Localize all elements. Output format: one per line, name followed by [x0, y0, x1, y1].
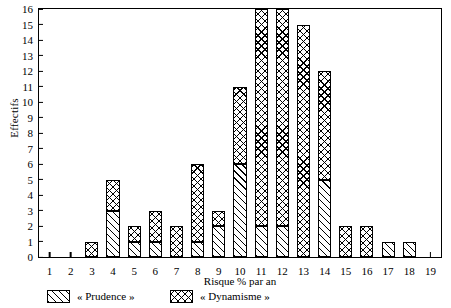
bar	[149, 211, 162, 258]
bar-segment	[318, 71, 331, 180]
plot-area: 012345678910111213141516 123456789101112…	[38, 8, 442, 258]
y-axis-tick-label: 16	[22, 4, 39, 15]
bar-segment	[128, 226, 141, 242]
bar	[106, 180, 119, 258]
bar	[382, 242, 395, 258]
bar-segment	[106, 211, 119, 258]
y-axis-tick-label: 13	[22, 50, 39, 61]
bar-segment	[255, 226, 268, 257]
bar	[170, 226, 183, 257]
bar	[297, 25, 310, 258]
bar-segment	[233, 164, 246, 257]
y-axis-tick-label: 0	[28, 252, 40, 263]
x-axis-tick-label: 18	[404, 257, 415, 277]
x-axis-tick-label: 5	[131, 257, 137, 277]
x-axis-tick-label: 14	[319, 257, 330, 277]
bar-segment	[276, 9, 289, 226]
x-axis-tick-label: 15	[340, 257, 351, 277]
bar	[403, 242, 416, 258]
y-axis-tick-label: 6	[28, 159, 40, 170]
y-axis-tick-label: 9	[28, 112, 40, 123]
legend-swatch-prudence-icon	[47, 290, 70, 303]
legend-item-prudence: « Prudence »	[47, 287, 134, 305]
x-axis-tick-label: 4	[110, 257, 116, 277]
bar-segment	[106, 180, 119, 211]
y-axis-tick-label: 4	[28, 190, 40, 201]
y-axis-tick-label: 10	[22, 97, 39, 108]
bar-segment	[212, 211, 225, 227]
bar-segment	[382, 242, 395, 258]
y-axis-tick-label: 2	[28, 221, 40, 232]
bar-segment	[255, 9, 268, 226]
bar	[276, 9, 289, 257]
y-axis-tick-label: 12	[22, 66, 39, 77]
x-axis-tick-label: 7	[174, 257, 180, 277]
bar-segment	[85, 242, 98, 258]
bar-segment	[128, 242, 141, 258]
bar	[360, 226, 373, 257]
legend: « Prudence » « Dynamisme »	[38, 287, 442, 307]
bar-segment	[318, 180, 331, 258]
x-axis-tick-label: 11	[256, 257, 267, 277]
bar	[233, 87, 246, 258]
x-axis-tick-label: 17	[383, 257, 394, 277]
x-axis-tick-label: 19	[425, 257, 436, 277]
histogram-figure: Effectifs 012345678910111213141516 12345…	[0, 0, 451, 308]
legend-swatch-dynamisme-icon	[170, 290, 193, 303]
x-axis-tick-label: 12	[277, 257, 288, 277]
bar	[128, 226, 141, 257]
bar	[339, 226, 352, 257]
legend-label-prudence: « Prudence »	[77, 290, 134, 302]
x-axis-tick-label: 2	[68, 257, 74, 277]
y-axis-tick-label: 8	[28, 128, 40, 139]
bar-segment	[170, 226, 183, 257]
bar	[318, 71, 331, 257]
bar-segment	[149, 211, 162, 242]
bar	[212, 211, 225, 258]
y-axis-tick-label: 11	[22, 81, 39, 92]
x-axis-tick-label: 13	[298, 257, 309, 277]
legend-item-dynamisme: « Dynamisme »	[170, 287, 270, 305]
bar-segment	[149, 242, 162, 258]
legend-label-dynamisme: « Dynamisme »	[200, 290, 270, 302]
bar-segment	[403, 242, 416, 258]
y-axis-tick-label: 14	[22, 35, 39, 46]
bar-segment	[360, 226, 373, 257]
x-axis-tick-label: 9	[216, 257, 222, 277]
y-axis-tick-label: 15	[22, 19, 39, 30]
x-axis-tick-label: 1	[47, 257, 53, 277]
y-axis-title: Effectifs	[8, 78, 20, 158]
bar	[85, 242, 98, 258]
x-axis-tick-label: 3	[89, 257, 95, 277]
x-axis-title: Risque % par an	[38, 275, 442, 287]
bar-segment	[297, 25, 310, 258]
x-axis-tick-label: 6	[153, 257, 159, 277]
bar-segment	[339, 226, 352, 257]
bar-segment	[191, 164, 204, 242]
bar	[191, 164, 204, 257]
y-axis-tick-label: 3	[28, 205, 40, 216]
x-axis-tick-label: 10	[235, 257, 246, 277]
x-axis-tick-label: 8	[195, 257, 201, 277]
bar	[255, 9, 268, 257]
bar-segment	[233, 87, 246, 165]
y-axis-tick-label: 5	[28, 174, 40, 185]
bar-segment	[276, 226, 289, 257]
bar-segment	[191, 242, 204, 258]
y-axis-tick-label: 1	[28, 236, 40, 247]
y-axis-tick-label: 7	[28, 143, 40, 154]
bar-segment	[212, 226, 225, 257]
x-axis-tick-label: 16	[361, 257, 372, 277]
